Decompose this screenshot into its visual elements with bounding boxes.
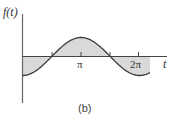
tick-label-2pi: 2π	[130, 58, 141, 70]
x-axis-label: t	[163, 57, 166, 72]
caption: (b)	[78, 102, 91, 114]
tick-label-pi: π	[77, 58, 83, 70]
figure: f(t) t π 2π (b)	[0, 0, 181, 122]
y-axis-label: f(t)	[3, 5, 18, 20]
